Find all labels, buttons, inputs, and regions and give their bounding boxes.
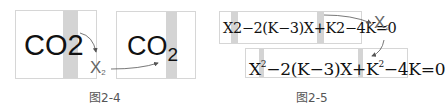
tool-icon-x: X — [374, 13, 385, 32]
subscript-2: 2 — [168, 44, 179, 65]
co-text: CO — [127, 31, 168, 61]
caption-figure-2-5: 图2-5 — [296, 88, 328, 105]
co2-before-box: CO2 — [15, 10, 97, 79]
subscript-button-icon: X2 — [90, 58, 106, 78]
equation-before-box: X2−2(K−3)X+K2−4K=0 — [219, 11, 362, 44]
eq-part: −2(K−3)X+K — [266, 59, 378, 79]
superscript-button-icon: X2 — [374, 13, 390, 33]
eq-part: X — [249, 59, 261, 79]
co2-after-text: CO2 — [127, 30, 178, 65]
subscript-icon-x: X — [90, 58, 101, 77]
equation-after-box: X2−2(K−3)X+K2−4K=0 — [245, 48, 408, 78]
co2-after-box: CO2 — [116, 11, 196, 79]
equation-after-text: X2−2(K−3)X+K2−4K=0 — [249, 53, 445, 80]
caption-figure-2-4: 图2-4 — [89, 88, 121, 105]
subscript-icon-2: 2 — [101, 68, 105, 77]
equation-before-text: X2−2(K−3)X+K2−4K=0 — [223, 19, 396, 37]
tool-icon-2: 2 — [385, 23, 389, 32]
co2-before-text: CO2 — [24, 29, 84, 61]
eq-part: −4K=0 — [384, 59, 445, 79]
